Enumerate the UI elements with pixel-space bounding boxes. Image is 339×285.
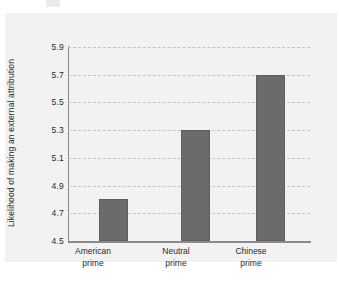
y-tick-label: 5.9 [24,42,64,52]
bar-american-prime [99,199,128,241]
x-tick-line-1: Neutral [133,246,219,258]
x-tick-line-1: Chinese [208,246,294,258]
y-tick-label: 5.1 [24,153,64,163]
y-tick-label: 4.5 [24,236,64,246]
x-tick-line-2: prime [208,258,294,270]
y-tick-label: 5.7 [24,70,64,80]
bar-chinese-prime [256,75,285,241]
plot-area [68,47,310,241]
y-axis-title-container: Likelihood of making an external attribu… [3,43,19,243]
y-tick-label: 4.7 [24,208,64,218]
chart-panel: Likelihood of making an external attribu… [5,13,337,262]
y-tick-label: 4.9 [24,181,64,191]
x-tick-label-chinese-prime: Chinese prime [208,246,294,269]
y-axis-tick-labels: 5.9 5.7 5.5 5.3 5.1 4.9 4.7 4.5 [20,47,64,241]
x-tick-line-1: American [50,246,136,258]
x-tick-line-2: prime [133,258,219,270]
truncated-caption-remnant [46,0,60,7]
bar-neutral-prime [181,130,210,241]
y-axis-title: Likelihood of making an external attribu… [6,59,16,227]
y-tick-label: 5.5 [24,97,64,107]
x-tick-line-2: prime [50,258,136,270]
gridline-5-9 [68,47,310,48]
x-axis-baseline [68,241,311,243]
x-tick-label-neutral-prime: Neutral prime [133,246,219,269]
x-tick-label-american-prime: American prime [50,246,136,269]
y-tick-label: 5.3 [24,125,64,135]
figure: Likelihood of making an external attribu… [0,0,339,285]
